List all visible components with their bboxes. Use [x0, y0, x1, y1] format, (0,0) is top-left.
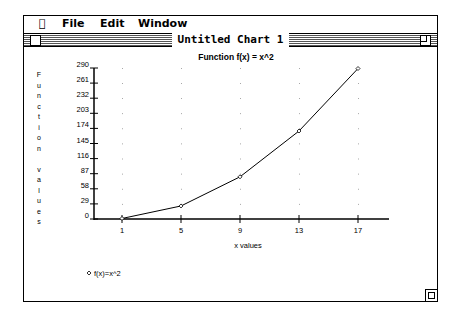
svg-text:58: 58 — [81, 181, 89, 190]
grow-box-icon[interactable] — [425, 289, 437, 301]
apple-menu-icon[interactable]:  — [39, 17, 46, 30]
svg-text:9: 9 — [238, 226, 242, 235]
svg-text:s: s — [37, 218, 41, 225]
svg-text:29: 29 — [81, 196, 89, 205]
y-axis-ticks: 0295887116145174203232261290 — [76, 60, 98, 220]
svg-text:l: l — [38, 187, 40, 194]
svg-text:n: n — [37, 145, 41, 152]
svg-text:203: 203 — [76, 105, 89, 114]
chart-window-content: Function f(x) = x^2 Functionvalues 02958… — [24, 47, 437, 301]
svg-text:F: F — [37, 71, 41, 78]
svg-text:87: 87 — [81, 166, 89, 175]
svg-text:17: 17 — [354, 226, 362, 235]
svg-text:290: 290 — [76, 60, 89, 69]
chart-title: Function f(x) = x^2 — [198, 52, 274, 62]
svg-text:261: 261 — [76, 75, 89, 84]
legend: f(x)=x^2 — [87, 269, 121, 278]
chart-canvas: Function f(x) = x^2 Functionvalues 02958… — [24, 47, 437, 301]
svg-text:0: 0 — [85, 211, 89, 220]
mac-screen:  File Edit Window Untitled Chart 1 Func… — [23, 15, 438, 302]
menu-edit[interactable]: Edit — [100, 17, 124, 31]
svg-text:v: v — [37, 166, 41, 173]
svg-text:n: n — [37, 92, 41, 99]
grid-dots — [122, 68, 359, 205]
legend-marker-icon — [87, 271, 91, 275]
x-axis-ticks: 1591317 — [120, 215, 362, 235]
svg-text:u: u — [37, 197, 41, 204]
svg-text:t: t — [38, 113, 40, 120]
x-axis-label: x values — [234, 241, 262, 250]
svg-text:o: o — [37, 134, 41, 141]
window-title: Untitled Chart 1 — [172, 32, 290, 47]
svg-text:116: 116 — [77, 151, 89, 160]
svg-text:c: c — [37, 103, 41, 110]
svg-text:i: i — [38, 124, 40, 131]
svg-text:13: 13 — [295, 226, 303, 235]
svg-text:145: 145 — [76, 136, 89, 145]
svg-text:e: e — [37, 208, 41, 215]
menu-window[interactable]: Window — [138, 17, 187, 31]
close-box-icon[interactable] — [30, 35, 41, 46]
svg-text:5: 5 — [179, 226, 183, 235]
svg-text:1: 1 — [120, 226, 124, 235]
svg-text:174: 174 — [76, 120, 89, 129]
legend-label: f(x)=x^2 — [94, 269, 121, 278]
svg-text:u: u — [37, 82, 41, 89]
window-title-bar[interactable]: Untitled Chart 1 — [24, 34, 437, 47]
svg-text:232: 232 — [76, 90, 89, 99]
zoom-box-icon[interactable] — [420, 35, 431, 46]
y-axis-label: Functionvalues — [37, 71, 41, 225]
menu-file[interactable]: File — [62, 17, 85, 31]
svg-text:a: a — [37, 176, 41, 183]
